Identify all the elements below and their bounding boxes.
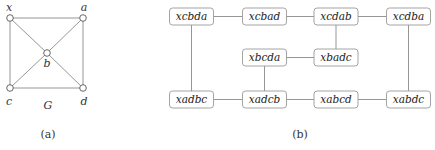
node-label: xbcda — [249, 51, 281, 63]
node-xadbc: xadbc — [170, 91, 214, 108]
node-xadcb: xadcb — [243, 91, 287, 108]
edge-b-c — [10, 53, 47, 88]
edge-a-b — [47, 18, 83, 53]
vertex-b — [44, 50, 51, 57]
graph-g-name: G — [44, 99, 53, 112]
diagram-canvas: xabcd G (a) xcbdaxcbadxcdabxcdbaxbcdaxba… — [0, 0, 435, 150]
node-xcdba: xcdba — [387, 8, 431, 25]
edge-x-b — [10, 18, 47, 53]
node-label: xcdab — [320, 10, 352, 22]
node-xabcd: xabcd — [314, 91, 358, 108]
node-xbcda: xbcda — [243, 49, 287, 66]
node-label: xcbad — [249, 10, 281, 22]
vertex-x — [7, 15, 14, 22]
node-label: xbadc — [320, 51, 352, 63]
vertex-label-x: x — [6, 1, 13, 14]
node-label: xabcd — [320, 93, 352, 105]
node-xabdc: xabdc — [387, 91, 431, 108]
node-xcdab: xcdab — [314, 8, 358, 25]
node-label: xcdba — [393, 10, 425, 22]
caption-a: (a) — [40, 128, 55, 141]
graph-b-panel: xcbdaxcbadxcdabxcdbaxbcdaxbadcxadbcxadcb… — [170, 8, 431, 141]
vertex-label-d: d — [80, 95, 87, 108]
node-xcbda: xcbda — [170, 8, 214, 25]
node-label: xadcb — [249, 93, 281, 105]
caption-b: (b) — [292, 128, 308, 141]
node-xcbad: xcbad — [243, 8, 287, 25]
node-label: xcbda — [176, 10, 208, 22]
vertex-label-a: a — [81, 1, 88, 14]
node-label: xabdc — [393, 93, 425, 105]
vertex-label-b: b — [43, 57, 50, 70]
node-label: xadbc — [176, 93, 208, 105]
node-xbadc: xbadc — [314, 49, 358, 66]
graph-g-panel: xabcd G (a) — [6, 1, 88, 141]
vertex-label-c: c — [6, 95, 12, 108]
vertex-a — [80, 15, 87, 22]
edge-b-d — [47, 53, 83, 88]
vertex-c — [7, 85, 14, 92]
vertex-d — [80, 85, 87, 92]
